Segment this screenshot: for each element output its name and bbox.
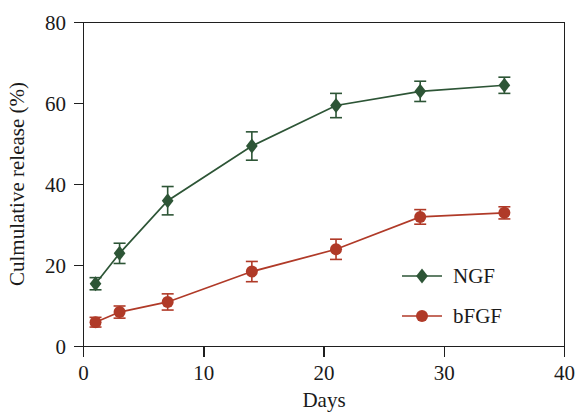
data-point-bfgf-day-21: [330, 243, 342, 255]
x-axis-ticks: [84, 347, 565, 357]
data-point-ngf-day-14: [246, 139, 258, 154]
y-axis-title: Culmulative release (%): [5, 82, 29, 286]
series-bfgf: [90, 207, 511, 328]
data-series-layer: [90, 77, 511, 328]
x-tick-label-30: 30: [434, 361, 455, 385]
y-tick-label-80: 80: [45, 11, 66, 35]
data-point-ngf-day-35: [499, 78, 511, 93]
y-tick-label-0: 0: [56, 335, 67, 359]
legend-label-bfgf: bFGF: [453, 304, 502, 328]
data-point-bfgf-day-3: [114, 306, 126, 318]
data-point-bfgf-day-35: [498, 207, 510, 219]
legend-entry-bfgf: [402, 310, 442, 322]
data-point-bfgf-day-7: [162, 296, 174, 308]
y-axis-ticks: [74, 23, 84, 347]
data-point-bfgf-day-14: [246, 266, 258, 278]
x-tick-label-40: 40: [554, 361, 575, 385]
circle-icon: [416, 310, 428, 322]
series-line-ngf: [96, 85, 505, 283]
diamond-icon: [416, 269, 428, 284]
plot-frame: [84, 23, 565, 347]
legend-label-ngf: NGF: [453, 264, 495, 288]
data-point-ngf-day-21: [330, 98, 342, 113]
chart-legend: [402, 269, 442, 323]
chart-figure: 80 60 40 20 0 0 10 20 30 40 Days Culmula…: [0, 0, 585, 413]
release-profile-chart: 80 60 40 20 0 0 10 20 30 40 Days Culmula…: [0, 0, 585, 413]
data-point-bfgf-day-1: [90, 316, 102, 328]
y-tick-label-40: 40: [45, 173, 66, 197]
y-tick-label-60: 60: [45, 92, 66, 116]
x-axis-title: Days: [302, 388, 345, 412]
series-line-bfgf: [96, 213, 505, 322]
y-tick-label-20: 20: [45, 254, 66, 278]
data-point-ngf-day-28: [414, 84, 426, 99]
x-tick-label-20: 20: [314, 361, 335, 385]
legend-entry-ngf: [402, 269, 442, 284]
x-tick-label-10: 10: [193, 361, 214, 385]
x-tick-label-0: 0: [78, 361, 89, 385]
data-point-bfgf-day-28: [414, 211, 426, 223]
